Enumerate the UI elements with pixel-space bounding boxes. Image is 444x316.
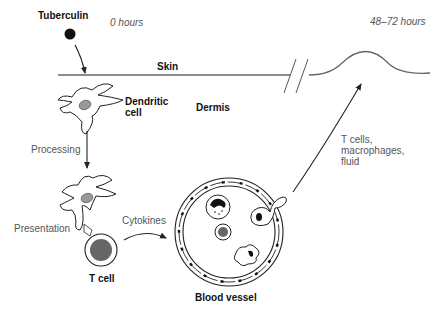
infiltrate-label: T cells, macrophages, fluid xyxy=(341,134,404,167)
t-cell-label: T cell xyxy=(89,273,115,284)
tuberculin-dot-icon xyxy=(65,29,76,40)
cytokines-arrow-icon xyxy=(124,233,166,240)
dendritic-cell-label: Dendritic cell xyxy=(125,96,168,118)
t-cell-icon xyxy=(85,234,117,266)
presentation-label: Presentation xyxy=(14,223,70,234)
time-start-label: 0 hours xyxy=(110,17,143,28)
dth-diagram: Tuberculin 0 hours 48–72 hours Skin Dend… xyxy=(0,0,444,316)
tuberculin-label: Tuberculin xyxy=(38,10,88,21)
blood-vessel-icon xyxy=(175,178,286,286)
time-end-label: 48–72 hours xyxy=(370,16,426,27)
dermis-label: Dermis xyxy=(196,102,230,113)
processing-label: Processing xyxy=(31,144,80,155)
dendritic-cell-icon xyxy=(58,84,123,134)
skin-line xyxy=(58,52,430,94)
injection-arrow-icon xyxy=(75,45,85,73)
blood-vessel-label: Blood vessel xyxy=(195,292,257,303)
skin-label: Skin xyxy=(157,61,178,72)
cytokines-label: Cytokines xyxy=(122,215,166,226)
